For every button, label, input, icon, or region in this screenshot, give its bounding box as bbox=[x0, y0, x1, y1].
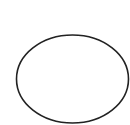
ellipse-shape bbox=[17, 35, 129, 123]
diagram-canvas bbox=[0, 0, 130, 125]
